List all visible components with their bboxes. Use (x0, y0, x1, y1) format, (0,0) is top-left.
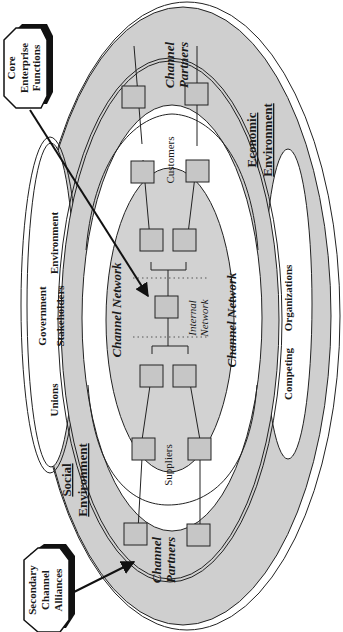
core-callout-line-2: Enterprise (18, 43, 30, 93)
secondary-callout-line-3: Alliances (52, 568, 64, 611)
node-core (155, 296, 178, 318)
node-supplier-left (132, 438, 155, 460)
economic-environment-title: Economic (244, 112, 259, 167)
government-label: Government (36, 286, 48, 346)
internal-network-label-1: Internal (186, 300, 198, 336)
secondary-callout: Secondary Channel Alliances (24, 544, 75, 632)
channel-network-diagram: Channel Partners Customers Channel Netwo… (0, 0, 343, 632)
channel-network-left-label: Channel Network (109, 262, 124, 357)
channel-partners-top-label-1: Channel (162, 41, 177, 88)
node-internal-bottom-left (140, 365, 163, 387)
node-internal-top-left (140, 229, 163, 251)
internal-network-label-2: Network (198, 298, 210, 337)
unions-label: Unions (48, 383, 60, 417)
node-partner-top-left (122, 86, 145, 108)
node-customer-left (131, 161, 154, 183)
internal-network-ellipse (106, 168, 234, 472)
channel-network-right-label: Channel Network (224, 272, 239, 367)
organizations-label: Organizations (282, 264, 294, 331)
social-environment-title: Social (59, 463, 74, 497)
core-callout-line-1: Core (5, 56, 17, 79)
suppliers-label: Suppliers (162, 444, 174, 486)
node-internal-bottom-right (173, 365, 196, 387)
economic-environment-subtitle: Environment (260, 103, 275, 177)
node-supplier-right (188, 438, 211, 460)
environment-item-label: Environment (48, 212, 60, 274)
channel-partners-top-label-2: Partners (176, 42, 191, 88)
channel-partners-bottom-label-1: Channel (149, 536, 164, 583)
node-customer-right (186, 160, 209, 182)
stakeholders-label: Stakeholders (54, 285, 66, 347)
social-environment-subtitle: Environment (75, 443, 90, 517)
core-callout-line-3: Functions (30, 44, 42, 91)
secondary-callout-line-1: Secondary (26, 565, 38, 615)
node-internal-top-right (173, 229, 196, 251)
node-partner-bottom-right (187, 524, 210, 546)
channel-partners-bottom-label-2: Partners (163, 537, 178, 583)
core-callout: Core Enterprise Functions (4, 24, 53, 108)
secondary-callout-line-2: Channel (39, 570, 51, 610)
node-partner-bottom-left (124, 523, 147, 545)
competing-label: Competing (282, 348, 294, 400)
customers-label: Customers (164, 136, 176, 183)
